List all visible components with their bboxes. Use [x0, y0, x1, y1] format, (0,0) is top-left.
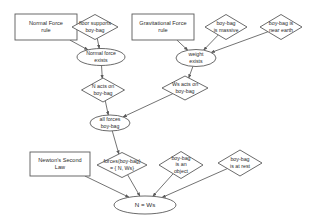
- node-label: = { N, Ws}: [110, 165, 134, 171]
- node-label: boy-bag: [230, 156, 249, 162]
- node-label: rule: [158, 27, 167, 33]
- node-label: rule: [41, 27, 50, 33]
- node-newtons-second-law[interactable]: Newton's SecondLaw: [30, 152, 90, 176]
- node-label: exists: [94, 57, 108, 63]
- edge-boy-bag-is-an-object-to-n-equals-ws: [153, 174, 173, 197]
- node-label: is at rest: [230, 163, 251, 169]
- node-label: boy-bag: [93, 90, 112, 96]
- node-label: boy-bag: [171, 155, 190, 161]
- node-label: boy-bag: [85, 27, 104, 33]
- edge-normal-force-exists-to-n-acts-on-boy-bag: [102, 66, 103, 79]
- node-label: Normal Force: [29, 20, 63, 26]
- edge-normal-force-rule-to-normal-force-exists: [70, 40, 88, 50]
- edge-newtons-second-law-to-n-equals-ws: [85, 176, 129, 197]
- node-label: boy-bag: [216, 20, 235, 26]
- node-label: Newton's Second: [38, 157, 81, 163]
- node-label: forces(boy-bag): [103, 158, 140, 164]
- node-gravitational-force-rule[interactable]: Gravitational Forcerule: [132, 14, 194, 40]
- edge-forces-boy-bag-set-to-n-equals-ws: [128, 175, 140, 196]
- node-label: Law: [55, 164, 66, 170]
- node-n-acts-on-boy-bag[interactable]: N acts onboy-bag: [82, 78, 125, 102]
- edge-boy-bag-is-massive-to-weight-exists: [204, 35, 219, 50]
- node-label: N = Ws: [135, 201, 155, 208]
- node-label: floor supports: [79, 20, 111, 26]
- inference-diagram: Normal Forcerulefloor supportsboy-bagGra…: [0, 0, 319, 222]
- node-label: weight: [189, 51, 205, 57]
- node-normal-force-rule[interactable]: Normal Forcerule: [15, 14, 77, 40]
- node-all-forces-boy-bag[interactable]: all forcesboy-bag: [90, 115, 130, 131]
- node-boy-bag-is-at-rest[interactable]: boy-bagis at rest: [218, 150, 262, 176]
- diagram-canvas: Normal Forcerulefloor supportsboy-bagGra…: [0, 0, 319, 222]
- node-label: exists: [189, 58, 203, 64]
- node-label: is massive: [214, 27, 239, 33]
- node-label: all forces: [100, 116, 121, 122]
- edge-gravitational-force-rule-to-weight-exists: [177, 40, 188, 50]
- node-label: object: [174, 168, 189, 174]
- node-boy-bag-is-near-earth[interactable]: boy-bag isnear earth: [260, 15, 302, 40]
- node-boy-bag-is-massive[interactable]: boy-bagis massive: [205, 15, 247, 40]
- edge-n-acts-on-boy-bag-to-all-forces-boy-bag: [105, 101, 108, 115]
- node-label: boy-bag is: [269, 20, 294, 26]
- node-label: Gravitational Force: [139, 20, 186, 26]
- node-label: Normal force: [86, 50, 116, 56]
- node-label: boy-bag: [175, 88, 194, 94]
- node-weight-exists[interactable]: weightexists: [176, 50, 216, 67]
- node-label: is an: [175, 161, 186, 167]
- node-label: boy-bag: [101, 123, 120, 129]
- node-label: near earth: [269, 27, 293, 33]
- node-normal-force-exists[interactable]: Normal forceexists: [77, 49, 125, 66]
- node-label: N acts on: [92, 83, 114, 89]
- node-label: Ws acts on: [172, 81, 198, 87]
- edge-weight-exists-to-ws-acts-on-boy-bag: [189, 66, 193, 78]
- edge-all-forces-boy-bag-to-forces-boy-bag-set: [112, 131, 119, 154]
- node-floor-supports-boy-bag[interactable]: floor supportsboy-bag: [72, 15, 118, 40]
- node-layer: Normal Forcerulefloor supportsboy-bagGra…: [15, 14, 302, 214]
- edge-floor-supports-boy-bag-to-normal-force-exists: [97, 38, 99, 48]
- edge-ws-acts-on-boy-bag-to-all-forces-boy-bag: [123, 94, 173, 117]
- node-n-equals-ws[interactable]: N = Ws: [114, 196, 176, 214]
- node-ws-acts-on-boy-bag[interactable]: Ws acts onboy-bag: [162, 76, 208, 100]
- node-forces-boy-bag-set[interactable]: forces(boy-bag)= { N, Ws}: [97, 153, 147, 178]
- node-boy-bag-is-an-object[interactable]: boy-bagis anobject: [159, 152, 203, 179]
